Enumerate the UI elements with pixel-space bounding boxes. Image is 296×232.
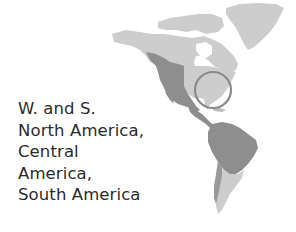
- caption-line-2: North America,: [18, 120, 144, 142]
- caption-line-3: Central: [18, 141, 144, 163]
- range-caption: W. and S. North America, Central America…: [18, 98, 144, 206]
- caption-line-4: America,: [18, 163, 144, 185]
- range-central-america: [188, 106, 214, 128]
- greenland-landmass: [226, 3, 284, 50]
- range-south-america: [208, 122, 258, 176]
- caption-line-1: W. and S.: [18, 98, 144, 120]
- caption-line-5: South America: [18, 184, 144, 206]
- range-map-figure: W. and S. North America, Central America…: [0, 0, 296, 232]
- arctic-islands: [158, 14, 224, 34]
